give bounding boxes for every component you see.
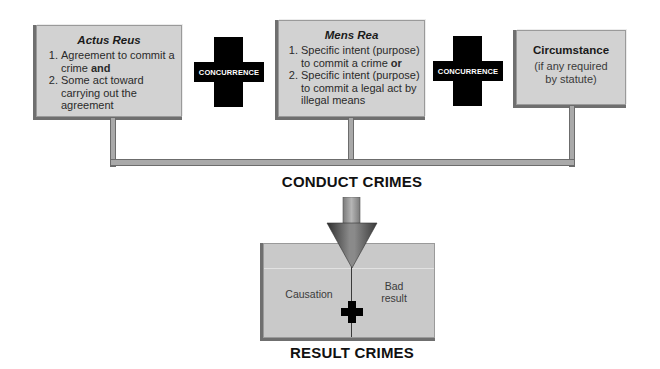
connector-right-vertical xyxy=(569,105,575,167)
plus-icon xyxy=(341,301,363,323)
concurrence-label-2: CONCURRENCE xyxy=(438,67,498,76)
item-text: Some act toward carrying out the agreeme… xyxy=(61,74,144,111)
concurrence-cross-1: CONCURRENCE xyxy=(194,37,264,107)
mens-rea-item-2: Specific intent (purpose) to commit a le… xyxy=(301,69,424,107)
connector-horizontal xyxy=(110,159,575,166)
mens-rea-item-1: Specific intent (purpose) to commit a cr… xyxy=(301,44,424,69)
item-text: Specific intent (purpose) to commit a le… xyxy=(301,69,420,106)
concurrence-cross-2: CONCURRENCE xyxy=(433,36,503,106)
connector-middle-vertical xyxy=(348,117,354,165)
actus-reus-list: Agreement to commit a crime and Some act… xyxy=(37,49,181,112)
actus-reus-item-2: Some act toward carrying out the agreeme… xyxy=(61,74,181,112)
causation-label: Causation xyxy=(274,288,344,300)
down-arrow-icon xyxy=(326,197,378,269)
conduct-crimes-label: CONDUCT CRIMES xyxy=(252,173,452,190)
item-emphasis: or xyxy=(391,57,402,69)
actus-reus-title: Actus Reus xyxy=(37,34,181,46)
bad-result-label: Bad result xyxy=(374,280,414,304)
mens-rea-title: Mens Rea xyxy=(279,29,424,41)
circumstance-title: Circumstance xyxy=(517,44,625,56)
item-emphasis: and xyxy=(91,62,111,74)
mens-rea-list: Specific intent (purpose) to commit a cr… xyxy=(279,44,424,107)
cross-horizontal-bar: CONCURRENCE xyxy=(433,61,503,81)
mens-rea-box: Mens Rea Specific intent (purpose) to co… xyxy=(278,20,425,117)
concurrence-label-1: CONCURRENCE xyxy=(199,68,259,77)
circumstance-box: Circumstance (if any required by statute… xyxy=(516,30,626,105)
circumstance-subtitle: (if any required by statute) xyxy=(517,60,625,86)
item-text: Agreement to commit a crime xyxy=(61,49,175,74)
cross-horizontal-bar: CONCURRENCE xyxy=(194,62,264,82)
actus-reus-box: Actus Reus Agreement to commit a crime a… xyxy=(36,25,182,117)
actus-reus-item-1: Agreement to commit a crime and xyxy=(61,49,181,74)
result-crimes-label: RESULT CRIMES xyxy=(252,344,452,361)
